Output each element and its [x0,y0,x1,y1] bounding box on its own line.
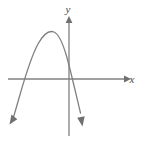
y-axis-label: y [65,3,71,15]
parabola-figure: x y [0,0,145,145]
x-axis-label: x [129,73,135,85]
graph-canvas: x y [0,0,145,145]
y-axis-arrowhead-icon [66,16,73,23]
parabola-right-arrowhead-icon [77,116,85,126]
parabola-path [14,32,81,117]
